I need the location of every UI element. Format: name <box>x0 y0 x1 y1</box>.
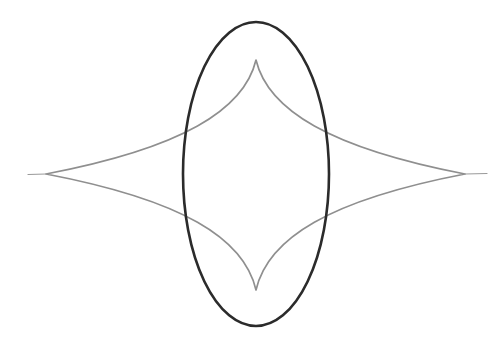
figure-canvas <box>0 0 501 346</box>
left-cusp-tail <box>28 174 46 175</box>
right-cusp-tail <box>465 174 487 175</box>
astroid-curve <box>46 60 465 290</box>
geometry-diagram <box>0 0 501 346</box>
vertical-ellipse <box>183 22 329 326</box>
